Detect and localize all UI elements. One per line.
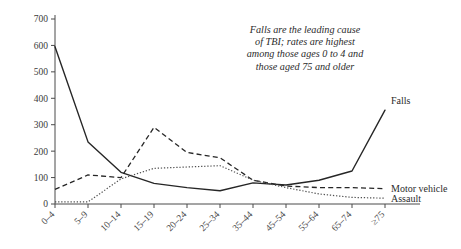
- chart-annotation: Falls are the leading causeof TBI; rates…: [247, 24, 364, 72]
- y-tick-label: 100: [34, 173, 49, 183]
- x-tick-label: ≥75: [369, 209, 387, 227]
- annotation-line: Falls are the leading cause: [249, 24, 361, 35]
- y-tick-label: 200: [34, 147, 49, 157]
- x-tick-label: 10–14: [99, 209, 123, 233]
- y-tick-label: 0: [43, 199, 48, 209]
- series-label-falls: Falls: [391, 95, 411, 106]
- y-tick-label: 500: [34, 67, 49, 77]
- x-axis: 0–45–910–1415–1920–2425–3435–4445–5455–6…: [39, 204, 420, 233]
- y-axis: 0100200300400500600700: [34, 14, 55, 209]
- series-label-assault: Assault: [391, 193, 421, 204]
- series-line-assault: [55, 166, 385, 202]
- series-line-motor-vehicle: [55, 127, 385, 189]
- x-tick-label: 45–54: [264, 209, 288, 233]
- annotation-line: of TBI; rates are highest: [255, 36, 356, 47]
- x-tick-label: 15–19: [132, 209, 156, 233]
- y-tick-label: 700: [34, 14, 49, 24]
- x-tick-label: 65–74: [330, 209, 354, 233]
- y-tick-label: 300: [34, 120, 49, 130]
- x-tick-label: 55–64: [297, 209, 321, 233]
- x-tick-label: 35–44: [231, 209, 255, 233]
- x-tick-label: 20–24: [165, 209, 189, 233]
- x-tick-label: 5–9: [72, 209, 89, 226]
- annotation-line: those aged 75 and older: [256, 61, 355, 72]
- annotation-line: among those ages 0 to 4 and: [247, 48, 364, 59]
- x-tick-label: 0–4: [39, 209, 56, 226]
- x-tick-label: 25–34: [198, 209, 222, 233]
- y-tick-label: 600: [34, 41, 49, 51]
- tbi-rate-line-chart: 0100200300400500600700 0–45–910–1415–192…: [0, 0, 461, 249]
- chart-plot-area: 0100200300400500600700 0–45–910–1415–192…: [0, 0, 461, 249]
- series-labels: FallsMotor vehicleAssault: [391, 95, 448, 204]
- y-tick-label: 400: [34, 94, 49, 104]
